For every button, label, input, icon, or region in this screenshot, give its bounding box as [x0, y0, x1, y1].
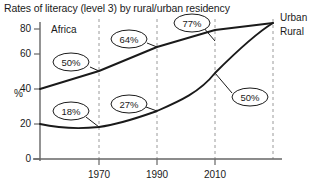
xtick-label-1990: 1990	[146, 169, 169, 180]
xtick-label-1970: 1970	[88, 169, 111, 180]
callout-rural-2010: 50%	[215, 73, 268, 106]
series-label-urban: Urban	[280, 12, 307, 23]
region-label-africa: Africa	[51, 24, 77, 35]
series-label-rural: Rural	[280, 26, 304, 37]
callout-urban-1990: 64%	[111, 30, 157, 48]
callout-label: 64%	[119, 34, 139, 45]
xtick-label-2010: 2010	[204, 169, 227, 180]
callout-leader-line	[90, 67, 99, 71]
callout-leader-line	[147, 43, 157, 47]
ytick-label-60: 60	[20, 48, 32, 59]
callout-label: 27%	[119, 99, 139, 110]
ytick-label-20: 20	[20, 118, 32, 129]
callout-leader-line	[86, 117, 99, 127]
y-axis-title: %	[14, 88, 23, 99]
callout-label: 50%	[61, 57, 81, 68]
callout-label: 77%	[182, 18, 202, 29]
callout-urban-1970: 50%	[53, 53, 99, 71]
callout-leader-line	[146, 107, 157, 111]
callout-rural-1970: 18%	[53, 102, 99, 127]
callout-label: 50%	[240, 92, 260, 103]
literacy-line-chart: 0 20 40 60 80 % 1970 1990 2010 Africa Ur…	[0, 0, 319, 183]
callout-rural-1990: 27%	[111, 95, 157, 113]
callout-leader-line	[215, 73, 232, 93]
callout-label: 18%	[61, 106, 81, 117]
x-axis-ticks	[99, 159, 215, 165]
ytick-label-0: 0	[25, 153, 31, 164]
chart-figure: Rates of literacy (level 3) by rural/urb…	[0, 0, 319, 183]
y-axis-ticks	[34, 29, 40, 159]
ytick-label-80: 80	[20, 23, 32, 34]
